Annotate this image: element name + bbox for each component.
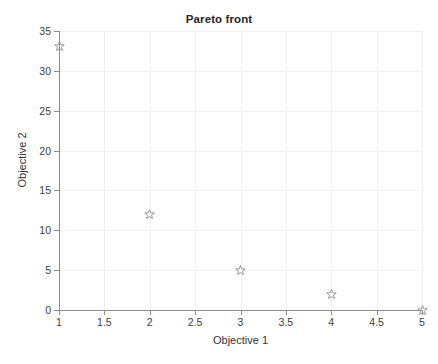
gridline-vertical: [422, 31, 423, 310]
x-tick-label: 1.5: [84, 316, 124, 328]
gridline-vertical: [377, 31, 378, 310]
x-tick-label: 2: [130, 316, 170, 328]
x-axis-title: Objective 1: [59, 334, 422, 346]
y-tick-label: 0: [11, 304, 51, 316]
y-tick-label: 30: [11, 65, 51, 77]
x-tick-label: 3.5: [266, 316, 306, 328]
gridline-vertical: [150, 31, 151, 310]
x-tick-label: 1: [39, 316, 79, 328]
plot-area: [59, 31, 422, 310]
y-tick-label: 35: [11, 25, 51, 37]
x-tick-label: 4.5: [357, 316, 397, 328]
chart-title: Pareto front: [0, 13, 438, 25]
gridline-vertical: [331, 31, 332, 310]
x-tick-label: 3: [221, 316, 261, 328]
x-tick-label: 4: [311, 316, 351, 328]
chart-figure: Pareto front 05101520253035 11.522.533.5…: [0, 0, 438, 364]
data-point-marker: [235, 265, 246, 276]
x-axis-line: [59, 310, 423, 311]
gridline-vertical: [286, 31, 287, 310]
y-tick-label: 5: [11, 264, 51, 276]
x-tick-label: 5: [402, 316, 438, 328]
gridline-vertical: [104, 31, 105, 310]
data-point-marker: [144, 209, 155, 220]
data-point-marker: [326, 289, 337, 300]
y-axis-line: [59, 31, 60, 311]
x-tick-label: 2.5: [175, 316, 215, 328]
gridline-vertical: [195, 31, 196, 310]
y-axis-title: Objective 2: [16, 90, 28, 230]
